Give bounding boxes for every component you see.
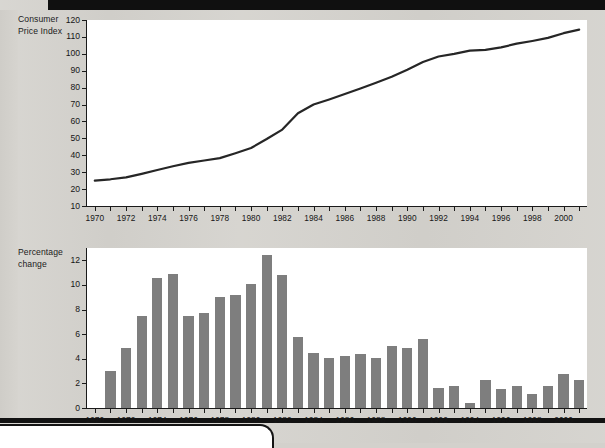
pct-bar <box>465 403 475 408</box>
pct-y-tick-mark <box>82 408 86 409</box>
cpi-x-tick-label: 1986 <box>330 213 360 223</box>
cpi-y-tick-label: 110 <box>56 32 80 41</box>
pct-x-tick-mark <box>235 409 236 413</box>
cpi-x-tick-label: 1984 <box>299 213 329 223</box>
pct-x-tick-label: 1992 <box>424 415 454 425</box>
pct-x-tick-label: 1998 <box>517 415 547 425</box>
pct-x-tick-mark <box>470 409 471 413</box>
cpi-x-tick-label: 1978 <box>205 213 235 223</box>
cpi-x-tick-mark <box>392 207 393 211</box>
cpi-line-path <box>95 30 579 181</box>
pct-x-tick-mark <box>454 409 455 413</box>
pct-x-tick-mark <box>142 409 143 413</box>
cpi-x-axis <box>86 206 587 207</box>
cpi-x-tick-mark <box>126 207 127 211</box>
pct-x-tick-mark <box>407 409 408 413</box>
cpi-x-tick-mark <box>204 207 205 211</box>
cpi-x-tick-mark <box>220 207 221 211</box>
cpi-x-tick-mark <box>454 207 455 211</box>
cpi-x-tick-label: 1970 <box>80 213 110 223</box>
pct-x-tick-label: 1996 <box>486 415 516 425</box>
pct-bar <box>340 356 350 408</box>
cpi-x-tick-mark <box>439 207 440 211</box>
cpi-y-tick-mark <box>82 88 86 89</box>
pct-x-tick-label: 1988 <box>361 415 391 425</box>
pct-x-tick-mark <box>126 409 127 413</box>
cpi-x-tick-label: 1996 <box>486 213 516 223</box>
pct-x-tick-mark <box>439 409 440 413</box>
pct-y-tick-label: 8 <box>56 305 80 314</box>
cpi-y-tick-label: 40 <box>56 151 80 160</box>
pct-y-axis <box>86 248 87 409</box>
pct-y-tick-mark <box>82 359 86 360</box>
pct-bar <box>371 358 381 408</box>
cpi-x-tick-mark <box>470 207 471 211</box>
pct-y-tick-mark <box>82 383 86 384</box>
cpi-x-tick-mark <box>251 207 252 211</box>
cpi-x-tick-mark <box>564 207 565 211</box>
cpi-x-tick-label: 1976 <box>174 213 204 223</box>
pct-bar <box>449 386 459 408</box>
pct-bar <box>402 348 412 408</box>
cpi-x-tick-mark <box>329 207 330 211</box>
cpi-x-tick-label: 1994 <box>455 213 485 223</box>
cpi-x-tick-label: 2000 <box>549 213 579 223</box>
cpi-x-tick-mark <box>532 207 533 211</box>
cpi-plot-area <box>87 20 587 206</box>
cpi-x-tick-label: 1980 <box>236 213 266 223</box>
pct-x-tick-label: 1990 <box>392 415 422 425</box>
cpi-y-tick-label: 100 <box>56 49 80 58</box>
pct-x-tick-label: 1984 <box>299 415 329 425</box>
pct-x-tick-mark <box>376 409 377 413</box>
bottom-callout-box <box>0 424 274 448</box>
pct-x-tick-mark <box>110 409 111 413</box>
cpi-y-tick-label: 20 <box>56 185 80 194</box>
cpi-x-tick-mark <box>517 207 518 211</box>
cpi-y-tick-label: 120 <box>56 16 80 25</box>
cpi-y-tick-label: 10 <box>56 202 80 211</box>
cpi-x-tick-mark <box>501 207 502 211</box>
pct-x-tick-mark <box>423 409 424 413</box>
pct-bar <box>105 371 115 408</box>
pct-x-tick-mark <box>189 409 190 413</box>
cpi-line-series <box>87 20 587 206</box>
pct-y-tick-label: 4 <box>56 354 80 363</box>
pct-y-tick-label: 6 <box>56 330 80 339</box>
cpi-y-tick-label: 30 <box>56 168 80 177</box>
pct-x-tick-label: 1974 <box>142 415 172 425</box>
pct-bar <box>230 295 240 408</box>
cpi-x-tick-mark <box>298 207 299 211</box>
pct-x-tick-label: 1978 <box>205 415 235 425</box>
pct-x-tick-mark <box>95 409 96 413</box>
cpi-y-tick-label: 80 <box>56 83 80 92</box>
pct-bar <box>496 389 506 408</box>
pct-bar <box>324 358 334 408</box>
pct-bar <box>574 380 584 408</box>
pct-x-tick-label: 1994 <box>455 415 485 425</box>
cpi-x-tick-mark <box>95 207 96 211</box>
pct-x-tick-mark <box>360 409 361 413</box>
pct-bar <box>308 353 318 408</box>
cpi-y-tick-mark <box>82 172 86 173</box>
cpi-y-tick-label: 50 <box>56 134 80 143</box>
cpi-x-tick-mark <box>173 207 174 211</box>
pct-x-tick-mark <box>517 409 518 413</box>
cpi-x-tick-mark <box>142 207 143 211</box>
cpi-x-tick-label: 1992 <box>424 213 454 223</box>
pct-x-tick-label: 2000 <box>549 415 579 425</box>
pct-bar <box>246 284 256 408</box>
cpi-x-tick-label: 1972 <box>111 213 141 223</box>
pct-bar <box>418 339 428 408</box>
pct-x-tick-mark <box>485 409 486 413</box>
pct-x-tick-mark <box>329 409 330 413</box>
pct-bar <box>183 316 193 408</box>
pct-y-tick-mark <box>82 310 86 311</box>
pct-x-tick-label: 1972 <box>111 415 141 425</box>
pct-y-tick-label: 12 <box>56 256 80 265</box>
cpi-x-tick-label: 1988 <box>361 213 391 223</box>
cpi-y-tick-mark <box>82 37 86 38</box>
cpi-x-tick-mark <box>189 207 190 211</box>
pct-x-tick-mark <box>548 409 549 413</box>
cpi-y-tick-mark <box>82 20 86 21</box>
pct-x-tick-mark <box>267 409 268 413</box>
